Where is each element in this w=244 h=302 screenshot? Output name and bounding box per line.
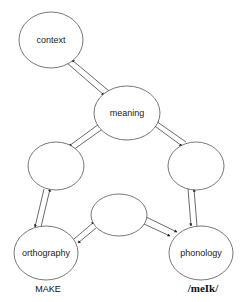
network-diagram: context meaning orthography phonology MA… — [0, 0, 244, 302]
caption-phonology-example: /meIk/ — [187, 282, 220, 294]
node-hidden-left — [28, 142, 84, 190]
node-label-orthography: orthography — [22, 248, 71, 258]
node-context: context — [19, 12, 83, 68]
node-label-phonology: phonology — [180, 248, 222, 258]
node-hidden-right — [168, 142, 224, 190]
node-phonology: phonology — [169, 226, 233, 280]
edge-context-meaning — [67, 60, 109, 95]
edge-hidden-middle-phonology — [144, 217, 177, 236]
node-meaning: meaning — [94, 86, 160, 140]
edge-meaning-hidden-left — [69, 124, 104, 150]
node-hidden-middle — [91, 194, 147, 236]
edge-orthography-hidden-middle — [74, 222, 96, 243]
node-label-meaning: meaning — [110, 108, 145, 118]
node-orthography: orthography — [14, 226, 78, 280]
caption-orthography-example: MAKE — [35, 284, 61, 294]
node-label-context: context — [36, 35, 66, 45]
edge-hidden-right-phonology — [188, 189, 197, 226]
edge-hidden-left-orthography — [35, 189, 50, 227]
